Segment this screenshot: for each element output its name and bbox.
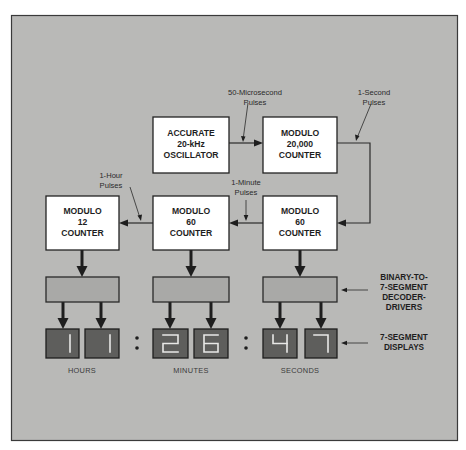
oscillator-block: ACCURATE 20-kHz OSCILLATOR [153, 117, 229, 173]
digit-display-seconds-ones [305, 329, 337, 358]
clock-block-diagram: ACCURATE 20-kHz OSCILLATOR MODULO 20,000… [0, 0, 466, 450]
annotation-1-minute-pulses: 1-Minute Pulses [231, 178, 261, 197]
svg-text:COUNTER: COUNTER [279, 228, 322, 238]
svg-text:BINARY-TO-: BINARY-TO- [380, 273, 428, 282]
svg-text:1-Second: 1-Second [358, 88, 391, 97]
svg-text:COUNTER: COUNTER [170, 228, 213, 238]
svg-text:COUNTER: COUNTER [279, 150, 322, 160]
svg-text:20,000: 20,000 [287, 139, 314, 149]
digit-display-seconds-tens [263, 329, 297, 358]
modulo-60-minutes-counter-block: MODULO 60 COUNTER [153, 196, 229, 250]
seven-segment-displays-label: 7-SEGMENT DISPLAYS [380, 333, 428, 352]
digit-display-minutes-ones [194, 329, 228, 358]
svg-text:60: 60 [186, 217, 196, 227]
svg-text:60: 60 [295, 217, 305, 227]
modulo-12-counter-block: MODULO 12 COUNTER [46, 196, 119, 250]
svg-text:20-kHz: 20-kHz [177, 139, 205, 149]
seconds-decoder-driver [263, 277, 337, 302]
svg-text:ACCURATE: ACCURATE [167, 128, 215, 138]
digit-display-hours-tens [46, 329, 79, 358]
svg-text:MODULO: MODULO [281, 128, 320, 138]
hours-label: HOURS [68, 366, 96, 375]
annotation-1-hour-pulses: 1-Hour Pulses [99, 171, 123, 190]
digit-display-hours-ones [85, 329, 119, 358]
svg-text:DRIVERS: DRIVERS [386, 303, 423, 312]
svg-text:7-SEGMENT: 7-SEGMENT [380, 283, 428, 292]
svg-text:1-Minute: 1-Minute [231, 178, 261, 187]
svg-text:50-Microsecond: 50-Microsecond [228, 88, 282, 97]
decoder-drivers-label: BINARY-TO- 7-SEGMENT DECODER- DRIVERS [380, 273, 428, 312]
svg-text:COUNTER: COUNTER [61, 228, 104, 238]
modulo-20000-counter-block: MODULO 20,000 COUNTER [263, 117, 337, 173]
minutes-label: MINUTES [173, 366, 208, 375]
svg-text:12: 12 [78, 217, 88, 227]
seconds-label: SECONDS [281, 366, 320, 375]
modulo-60-seconds-counter-block: MODULO 60 COUNTER [263, 196, 337, 250]
hours-decoder-driver [46, 277, 119, 302]
svg-text:7-SEGMENT: 7-SEGMENT [380, 333, 428, 342]
svg-text:DISPLAYS: DISPLAYS [384, 343, 425, 352]
svg-text:DECODER-: DECODER- [382, 293, 426, 302]
svg-text:Pulses: Pulses [100, 181, 123, 190]
svg-text:MODULO: MODULO [172, 206, 211, 216]
svg-text:MODULO: MODULO [63, 206, 102, 216]
svg-text:1-Hour: 1-Hour [99, 171, 123, 180]
annotation-1-second-pulses: 1-Second Pulses [358, 88, 391, 107]
digit-display-minutes-tens [153, 329, 188, 358]
minutes-decoder-driver [153, 277, 229, 302]
svg-text:Pulses: Pulses [363, 98, 386, 107]
svg-text:OSCILLATOR: OSCILLATOR [163, 150, 219, 160]
svg-text:Pulses: Pulses [244, 98, 267, 107]
svg-text:Pulses: Pulses [235, 188, 258, 197]
svg-text:MODULO: MODULO [281, 206, 320, 216]
